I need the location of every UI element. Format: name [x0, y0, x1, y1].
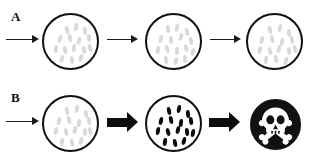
cell-marker — [66, 116, 72, 124]
cell-marker — [190, 129, 196, 137]
cell-marker — [166, 107, 172, 115]
vessel-b1 — [42, 95, 99, 152]
cell-marker — [184, 28, 190, 36]
cell-marker — [287, 47, 292, 55]
cell-marker — [257, 46, 263, 54]
cell-marker — [190, 48, 196, 56]
arrow-a2-to-a3-shaft — [210, 39, 235, 40]
cell-marker — [276, 45, 282, 53]
cell-marker — [155, 46, 160, 54]
arrow-into-a1-head — [32, 35, 39, 43]
arrow-b2-to-skull-shaft — [209, 118, 230, 127]
cell-marker — [183, 55, 188, 63]
vessel-b2 — [145, 95, 202, 152]
cell-marker — [86, 117, 91, 125]
arrow-into-b1-shaft — [6, 121, 33, 122]
cell-marker — [188, 117, 193, 125]
cell-marker — [178, 33, 184, 42]
cell-marker — [78, 137, 84, 145]
arrow-b2-to-skull-head — [229, 112, 240, 132]
cell-marker — [292, 45, 298, 53]
panel-label-a: A — [11, 10, 21, 23]
cell-marker — [54, 45, 59, 53]
cell-marker — [57, 35, 63, 43]
cell-marker — [175, 126, 181, 134]
arrow-into-a1-shaft — [6, 39, 33, 40]
cell-marker — [165, 25, 170, 33]
cell-marker — [277, 24, 283, 32]
cell-marker — [87, 127, 93, 135]
cell-marker — [64, 26, 70, 34]
cell-marker — [70, 56, 75, 64]
cell-marker — [87, 44, 93, 53]
cell-marker — [59, 138, 64, 146]
figure-canvas: AB — [0, 0, 311, 164]
cell-marker — [172, 139, 178, 147]
arrow-b2-to-skull — [209, 112, 240, 132]
cell-marker — [81, 46, 86, 54]
cell-marker — [64, 107, 70, 115]
cell-marker — [175, 47, 180, 55]
cell-marker — [72, 126, 78, 134]
cell-marker — [62, 46, 68, 54]
cell-marker — [56, 117, 62, 125]
cell-marker — [169, 36, 174, 44]
arrow-a2-to-a3-head — [234, 35, 241, 43]
arrow-a2-to-a3 — [210, 34, 241, 46]
arrow-b1-to-b2 — [107, 112, 138, 132]
cell-marker — [183, 44, 189, 53]
cell-marker — [173, 57, 179, 65]
cell-marker — [165, 128, 171, 136]
cell-marker — [164, 45, 170, 53]
cell-marker — [181, 137, 187, 145]
vessel-b3-skull — [250, 99, 301, 150]
cell-marker — [53, 127, 59, 135]
cell-marker — [163, 56, 168, 64]
cell-marker — [158, 35, 164, 43]
arrow-b1-to-b2-shaft — [107, 118, 128, 127]
arrow-into-a1 — [6, 34, 39, 46]
cell-marker — [283, 57, 289, 65]
arrow-into-b1 — [6, 116, 39, 128]
vessel-a3 — [246, 13, 303, 70]
vessel-a1 — [42, 13, 99, 70]
cell-marker — [67, 34, 73, 42]
cell-marker — [269, 35, 275, 43]
panel-label-b: B — [11, 91, 20, 104]
arrow-a1-to-a2-head — [131, 35, 138, 43]
cell-marker — [263, 56, 268, 64]
cell-marker — [76, 37, 83, 46]
cell-marker — [69, 139, 75, 147]
cell-marker — [76, 119, 81, 127]
arrow-b1-to-b2-head — [127, 112, 138, 132]
arrow-a1-to-a2-shaft — [107, 39, 132, 40]
cell-marker — [267, 26, 273, 34]
cell-marker — [188, 37, 194, 45]
cell-marker — [59, 55, 65, 63]
cell-marker — [78, 54, 84, 63]
cell-marker — [168, 116, 174, 124]
cell-marker — [155, 127, 161, 135]
cell-marker — [71, 44, 77, 52]
cell-marker — [74, 105, 80, 113]
cell-marker — [273, 55, 279, 63]
cell-marker — [73, 23, 78, 31]
cell-marker — [63, 128, 69, 136]
cell-marker — [162, 138, 167, 146]
cell-marker — [259, 36, 265, 44]
cell-marker — [87, 34, 92, 42]
cell-marker — [176, 105, 182, 113]
cell-marker — [267, 47, 273, 55]
cell-marker — [158, 117, 164, 125]
arrow-a1-to-a2 — [107, 34, 138, 46]
skull-and-crossbones-icon — [252, 101, 299, 148]
vessel-a2 — [145, 13, 202, 70]
cell-marker — [289, 36, 294, 44]
cell-marker — [185, 128, 190, 136]
arrow-into-b1-head — [32, 117, 39, 125]
cell-marker — [174, 24, 180, 32]
